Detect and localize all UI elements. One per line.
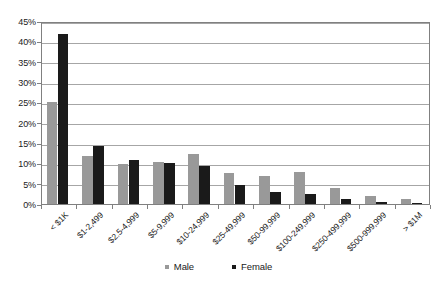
x-tick-mark bbox=[253, 205, 254, 209]
legend-label: Female bbox=[241, 261, 272, 272]
bar-group bbox=[113, 23, 148, 204]
bar-group bbox=[360, 23, 395, 204]
bar-group bbox=[290, 23, 325, 204]
x-tick-label: > $1M bbox=[400, 210, 424, 234]
y-tick-label: 20% bbox=[0, 119, 36, 129]
legend-swatch-icon bbox=[232, 265, 236, 269]
bar-group bbox=[183, 23, 218, 204]
y-tick-label: 10% bbox=[0, 159, 36, 169]
y-tick-label: 45% bbox=[0, 17, 36, 27]
bar-female bbox=[376, 202, 387, 204]
y-tick-label: 30% bbox=[0, 78, 36, 88]
bar-male bbox=[330, 188, 341, 204]
chart-legend: MaleFemale bbox=[0, 261, 437, 272]
y-tick-label: 0% bbox=[0, 200, 36, 210]
legend-entry-female[interactable]: Female bbox=[232, 261, 272, 272]
y-tick-label: 5% bbox=[0, 180, 36, 190]
x-tick-label: < $1K bbox=[47, 210, 70, 233]
x-tick-label: $25-49,999 bbox=[210, 210, 247, 247]
x-tick-mark bbox=[430, 205, 431, 209]
legend-label: Male bbox=[174, 261, 194, 272]
bar-group bbox=[42, 23, 77, 204]
bar-male bbox=[224, 173, 235, 204]
bar-male bbox=[118, 164, 129, 204]
x-tick-mark bbox=[218, 205, 219, 209]
legend-swatch-icon bbox=[165, 265, 169, 269]
bar-male bbox=[188, 154, 199, 204]
x-tick-mark bbox=[289, 205, 290, 209]
x-tick-mark bbox=[395, 205, 396, 209]
bar-male bbox=[365, 196, 376, 204]
y-tick-label: 15% bbox=[0, 139, 36, 149]
bar-female bbox=[129, 160, 140, 204]
bar-male bbox=[153, 162, 164, 204]
bar-male bbox=[259, 176, 270, 204]
bar-female bbox=[58, 34, 69, 204]
bar-male bbox=[294, 172, 305, 204]
bar-group bbox=[77, 23, 112, 204]
bar-group bbox=[219, 23, 254, 204]
bar-female bbox=[305, 194, 316, 204]
bar-female bbox=[93, 146, 104, 204]
bar-female bbox=[270, 192, 281, 204]
x-tick-mark bbox=[41, 205, 42, 209]
x-tick-mark bbox=[76, 205, 77, 209]
bar-female bbox=[412, 203, 423, 204]
bar-female bbox=[199, 166, 210, 204]
x-tick-mark bbox=[147, 205, 148, 209]
bar-female bbox=[164, 163, 175, 204]
y-tick-label: 35% bbox=[0, 58, 36, 68]
x-tick-label: $1-2,499 bbox=[75, 210, 105, 240]
bar-chart: 0%5%10%15%20%25%30%35%40%45% < $1K$1-2,4… bbox=[0, 0, 437, 283]
bar-group bbox=[325, 23, 360, 204]
y-tick-label: 40% bbox=[0, 37, 36, 47]
y-tick-label: 25% bbox=[0, 98, 36, 108]
bar-group bbox=[396, 23, 431, 204]
bar-group bbox=[148, 23, 183, 204]
x-tick-mark bbox=[324, 205, 325, 209]
legend-entry-male[interactable]: Male bbox=[165, 261, 194, 272]
x-tick-label: $10-24,999 bbox=[175, 210, 212, 247]
x-tick-label: $2.5-4,999 bbox=[106, 210, 141, 245]
x-tick-label: $50-99,999 bbox=[245, 210, 282, 247]
bar-female bbox=[341, 199, 352, 204]
bars-layer bbox=[42, 23, 429, 204]
bar-female bbox=[235, 185, 246, 204]
x-tick-mark bbox=[112, 205, 113, 209]
bar-male bbox=[82, 156, 93, 204]
x-tick-mark bbox=[182, 205, 183, 209]
bar-male bbox=[47, 102, 58, 204]
x-tick-mark bbox=[359, 205, 360, 209]
plot-area bbox=[41, 22, 430, 205]
bar-male bbox=[401, 199, 412, 204]
x-tick-label: $5-9,999 bbox=[146, 210, 176, 240]
bar-group bbox=[254, 23, 289, 204]
